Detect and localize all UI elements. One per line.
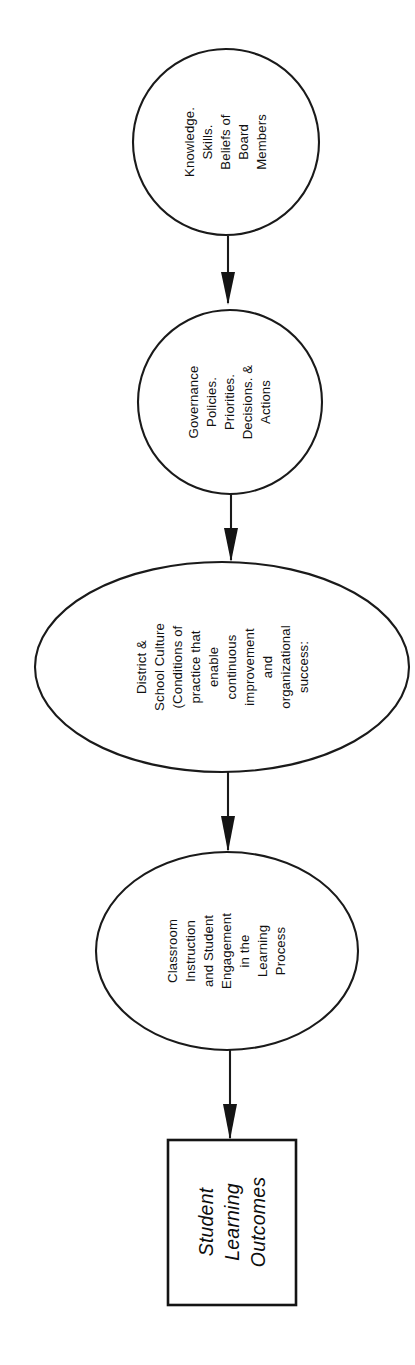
node-line: Learning xyxy=(221,1183,243,1261)
diagram-page: Knowledge. Skills. Beliefs of Board Memb… xyxy=(0,0,415,1365)
node-district-school-culture[interactable]: District & School Culture (Conditions of… xyxy=(35,562,409,772)
node-line: Governance xyxy=(186,366,201,439)
node-line: and xyxy=(260,656,275,678)
node-line: and Student xyxy=(201,915,216,987)
node-line: Knowledge. xyxy=(182,107,197,177)
node-line: Process xyxy=(273,927,288,976)
node-district-school-culture-shape xyxy=(35,562,409,772)
node-student-learning-outcomes-text: Student Learning Outcomes xyxy=(195,1177,269,1268)
node-line: Beliefs of xyxy=(218,114,233,169)
node-line: success: xyxy=(296,641,311,693)
connector-2-arrowhead-icon xyxy=(224,528,238,562)
connector-1 xyxy=(221,236,235,305)
node-line: practice that xyxy=(188,630,203,703)
connector-1-arrowhead-icon xyxy=(221,272,235,305)
node-classroom-instruction[interactable]: Classroom Instruction and Student Engage… xyxy=(96,852,358,1050)
node-knowledge-skills-beliefs[interactable]: Knowledge. Skills. Beliefs of Board Memb… xyxy=(133,49,319,235)
node-line: Policies. xyxy=(204,377,219,427)
connector-2 xyxy=(224,494,238,562)
flow-diagram: Knowledge. Skills. Beliefs of Board Memb… xyxy=(0,0,415,1365)
connector-4-arrowhead-icon xyxy=(223,1104,237,1140)
node-line: Decisions. & xyxy=(240,365,255,440)
node-line: Engagement xyxy=(219,913,234,989)
node-line: in the xyxy=(237,935,252,968)
connector-3-arrowhead-icon xyxy=(221,816,235,852)
node-line: Members xyxy=(254,114,269,170)
node-line: Instruction xyxy=(183,920,198,982)
node-line: Outcomes xyxy=(247,1177,269,1268)
connector-4 xyxy=(223,1050,237,1140)
node-line: Skills. xyxy=(200,124,215,159)
node-line: Priorities. xyxy=(222,374,237,430)
node-line: School Culture xyxy=(152,623,167,711)
node-line: continuous xyxy=(224,634,239,699)
node-line: Classroom xyxy=(165,919,180,983)
node-line: (Conditions of xyxy=(170,625,185,708)
node-line: Student xyxy=(195,1186,217,1256)
node-line: District & xyxy=(134,640,149,694)
node-line: Board xyxy=(236,124,251,160)
node-line: Actions xyxy=(258,380,273,424)
node-line: organizational xyxy=(278,625,293,709)
node-line: enable xyxy=(206,647,221,687)
node-line: Learning xyxy=(255,925,270,977)
connector-3 xyxy=(221,772,235,852)
node-line: improvement xyxy=(242,628,257,706)
node-knowledge-skills-beliefs-text: Knowledge. Skills. Beliefs of Board Memb… xyxy=(182,107,269,177)
node-student-learning-outcomes[interactable]: Student Learning Outcomes xyxy=(168,1140,296,1305)
node-governance[interactable]: Governance Policies. Priorities. Decisio… xyxy=(138,310,322,494)
